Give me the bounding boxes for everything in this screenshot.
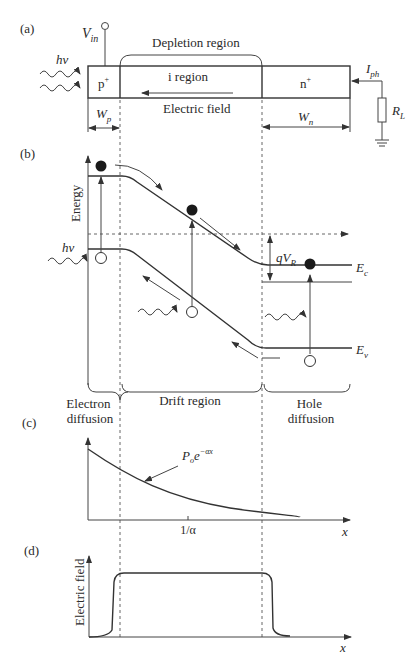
drift-region-bracket bbox=[122, 384, 262, 392]
panel-label-b: (b) bbox=[20, 146, 35, 161]
photon-wave-icon bbox=[40, 85, 80, 91]
depletion-bracket bbox=[120, 55, 262, 66]
photon-label-b: hν bbox=[62, 240, 75, 255]
vin-label: Vin bbox=[82, 26, 98, 44]
ground-icon bbox=[375, 140, 389, 146]
panel-c: (c) Poe−αx 1/α x bbox=[22, 415, 350, 539]
electron-motion-arrow bbox=[115, 165, 162, 190]
curve-equation-label: Poe−αx bbox=[181, 447, 213, 465]
wp-label: Wp bbox=[96, 106, 112, 124]
photon-wave-icon bbox=[138, 309, 177, 315]
panel-b: (b) Energy qVR Ec Ev hν bbox=[20, 146, 368, 426]
hole-icon bbox=[187, 307, 198, 318]
panel-label-a: (a) bbox=[20, 21, 34, 36]
drift-region-label: Drift region bbox=[159, 393, 221, 408]
electron-diffusion-label: Electron diffusion bbox=[66, 396, 113, 426]
photon-wave-icon bbox=[40, 71, 80, 77]
hole-icon bbox=[96, 253, 107, 264]
curve-label-arrow bbox=[145, 466, 178, 481]
panel-label-c: (c) bbox=[22, 415, 36, 430]
hole-diffusion-label: Hole diffusion bbox=[288, 396, 335, 426]
electric-field-label: Electric field bbox=[163, 101, 231, 116]
photon-wave-icon bbox=[48, 258, 87, 264]
ec-label: Ec bbox=[355, 260, 368, 278]
electric-field-profile bbox=[89, 573, 290, 637]
c-x-axis-label: x bbox=[341, 524, 348, 539]
rl-label: RL bbox=[391, 103, 405, 121]
pin-photodiode-figure: (a) Vin hν Depletion region p+ i region … bbox=[0, 0, 420, 662]
conduction-band-edge bbox=[88, 176, 352, 265]
electron-icon bbox=[305, 259, 316, 270]
electron-icon bbox=[96, 161, 107, 172]
electric-field-axis-label: Electric field bbox=[72, 558, 87, 626]
panel-label-d: (d) bbox=[24, 543, 39, 558]
d-x-axis-label: x bbox=[339, 640, 346, 655]
hole-icon bbox=[305, 356, 316, 367]
photon-wave-icon bbox=[265, 314, 306, 320]
hole-drift-arrow bbox=[143, 276, 180, 300]
panel-d: (d) Electric field x bbox=[24, 543, 351, 655]
panel-a: (a) Vin hν Depletion region p+ i region … bbox=[20, 21, 405, 146]
wn-label: Wn bbox=[298, 109, 314, 127]
depletion-region-label: Depletion region bbox=[152, 35, 240, 50]
load-resistor-icon bbox=[378, 98, 386, 122]
electron-icon bbox=[187, 205, 198, 216]
iph-label: Iph bbox=[365, 61, 380, 79]
hole-diffusion-bracket bbox=[264, 384, 350, 392]
photon-label-a: hν bbox=[56, 52, 69, 67]
x-tick-label: 1/α bbox=[180, 523, 196, 537]
ev-label: Ev bbox=[355, 342, 368, 360]
n-region-label: n+ bbox=[300, 75, 312, 91]
energy-axis-label: Energy bbox=[68, 184, 83, 222]
p-region-label: p+ bbox=[98, 75, 110, 91]
i-region-label: i region bbox=[168, 69, 209, 84]
vin-terminal-icon bbox=[102, 23, 109, 30]
